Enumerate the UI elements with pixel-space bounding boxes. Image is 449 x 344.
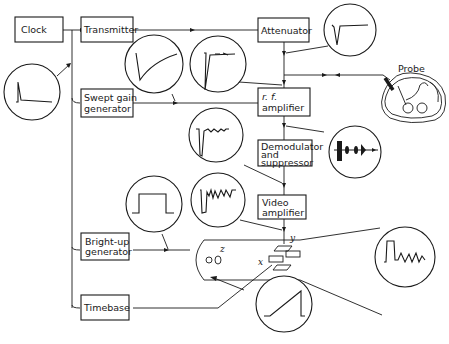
arrow-icon — [173, 101, 178, 105]
waveform-clock-pulse — [4, 63, 71, 120]
waveform-crt-display — [375, 227, 435, 287]
svg-text:Timebase: Timebase — [83, 302, 130, 313]
probe-label: Probe — [398, 63, 425, 74]
arrow-icon — [335, 73, 340, 77]
waveform-bright-up — [126, 176, 182, 249]
x-plate-label: x — [258, 257, 263, 267]
swept-gain-generator-block: Swept gain generator — [81, 89, 137, 117]
arrow-icon — [190, 28, 195, 32]
bright-up-generator-block: Bright-up generator — [81, 233, 132, 260]
svg-text:Attenuator: Attenuator — [261, 25, 312, 36]
z-grid-label: z — [219, 244, 225, 254]
arrow-icon — [282, 183, 286, 188]
svg-text:generator: generator — [85, 246, 132, 257]
arrow-icon — [282, 80, 286, 85]
crt-cathode — [206, 257, 212, 263]
svg-text:r. f.: r. f. — [262, 91, 277, 102]
video-amplifier-block: Video amplifier — [258, 195, 306, 219]
rf-amplifier-block: r. f. amplifier — [258, 88, 310, 116]
svg-text:amplifier: amplifier — [262, 102, 304, 113]
bus-to-brightup-line — [72, 247, 80, 250]
crt-tube-neck — [196, 240, 204, 280]
arrow-icon — [322, 73, 327, 77]
svg-text:amplifier: amplifier — [262, 207, 304, 218]
svg-text:generator: generator — [84, 103, 131, 114]
y-plate-bottom — [273, 265, 291, 270]
timebase-block: Timebase — [81, 295, 130, 320]
x-plate-left — [269, 256, 283, 262]
y-plate-top — [274, 246, 292, 251]
block-diagram: y x z Clock Transmitter Attenuator Swept… — [0, 0, 449, 344]
probe-body-cross-section: Probe — [382, 63, 446, 123]
svg-text:suppressor: suppressor — [261, 157, 313, 168]
y-plate-label: y — [289, 233, 296, 243]
timebase-to-x-line — [133, 265, 272, 308]
svg-text:Swept gain: Swept gain — [84, 92, 137, 103]
svg-text:Clock: Clock — [21, 24, 47, 35]
waveform-timebase — [210, 276, 312, 332]
arrow-icon — [282, 123, 286, 128]
arrow-icon — [282, 227, 286, 232]
waveform-rf-pulse — [190, 36, 282, 92]
clock-block: Clock — [15, 17, 63, 42]
arrow-icon — [282, 51, 286, 56]
svg-text:Transmitter: Transmitter — [83, 24, 138, 35]
bus-to-timebase-line — [72, 305, 80, 308]
attenuator-block: Attenuator — [258, 18, 312, 42]
x-plate-right — [286, 251, 300, 257]
bus-to-swept-gain-line — [72, 98, 80, 103]
crt-grid — [215, 256, 221, 264]
demodulator-suppressor-block: Demodulator and suppressor — [258, 140, 323, 168]
transmitter-block: Transmitter — [81, 17, 138, 42]
